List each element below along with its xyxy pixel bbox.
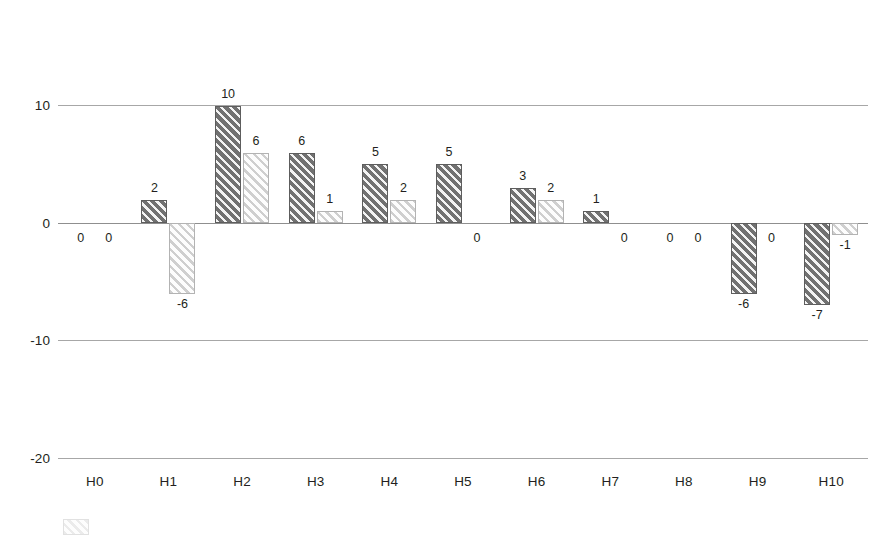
bar-value-label-h1-series-2: -6 [177,297,188,311]
bar-value-label-h2-series-2: 6 [253,134,260,148]
bar-h5-series-1[interactable] [436,164,462,223]
bar-h10-series-1[interactable] [804,223,830,305]
x-tick-label-h8: H8 [675,474,693,489]
x-tick-label-h10: H10 [818,474,843,489]
bar-h4-series-2[interactable] [390,200,416,224]
bar-value-label-h3-series-1: 6 [298,134,305,148]
gridline-minus-10 [58,340,868,341]
bar-h6-series-1[interactable] [510,188,536,223]
x-tick-label-h9: H9 [749,474,767,489]
x-tick-label-h7: H7 [601,474,619,489]
bar-value-label-h10-series-2: -1 [840,238,851,252]
bar-value-label-h3-series-2: 1 [326,192,333,206]
bar-h10-series-2[interactable] [832,223,858,235]
bar-h1-series-1[interactable] [141,200,167,224]
y-tick-label-10: 10 [4,98,50,113]
bar-h2-series-1[interactable] [215,106,241,224]
legend-swatch-series-2 [63,519,89,535]
x-tick-label-h6: H6 [528,474,546,489]
bar-value-label-h8-series-2: 0 [694,231,701,245]
bar-value-label-h1-series-1: 2 [151,181,158,195]
legend [63,519,97,535]
gridline-minus-20 [58,458,868,459]
x-tick-label-h2: H2 [233,474,251,489]
x-tick-label-h1: H1 [160,474,178,489]
bar-h3-series-2[interactable] [317,211,343,223]
bar-h2-series-2[interactable] [243,153,269,224]
bar-value-label-h9-series-1: -6 [738,297,749,311]
bar-value-label-h5-series-2: 0 [474,231,481,245]
bar-value-label-h0-series-2: 0 [105,231,112,245]
bar-h1-series-2[interactable] [169,223,195,294]
bar-value-label-h10-series-1: -7 [812,308,823,322]
bar-value-label-h0-series-1: 0 [77,231,84,245]
bar-value-label-h7-series-2: 0 [621,231,628,245]
x-tick-label-h4: H4 [381,474,399,489]
bar-h3-series-1[interactable] [289,153,315,224]
bar-value-label-h8-series-1: 0 [666,231,673,245]
bar-h7-series-1[interactable] [583,211,609,223]
bar-value-label-h7-series-1: 1 [593,192,600,206]
y-tick-label-minus-20: -20 [4,451,50,466]
bar-value-label-h5-series-1: 5 [446,145,453,159]
bar-h9-series-1[interactable] [731,223,757,294]
y-tick-label-minus-10: -10 [4,333,50,348]
bar-value-label-h6-series-1: 3 [519,169,526,183]
bar-value-label-h4-series-1: 5 [372,145,379,159]
bar-value-label-h9-series-2: 0 [768,231,775,245]
gridline-10 [58,105,868,106]
bar-h6-series-2[interactable] [538,200,564,224]
bar-value-label-h4-series-2: 2 [400,181,407,195]
bar-value-label-h2-series-1: 10 [221,87,235,101]
x-tick-label-h3: H3 [307,474,325,489]
x-tick-label-h5: H5 [454,474,472,489]
x-tick-label-h0: H0 [86,474,104,489]
bar-value-label-h6-series-2: 2 [547,181,554,195]
bar-h4-series-1[interactable] [362,164,388,223]
y-tick-label-0: 0 [4,216,50,231]
